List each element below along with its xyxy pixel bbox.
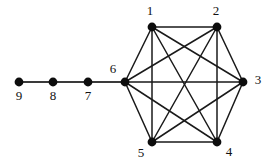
graph-vertex-1 — [148, 23, 157, 32]
vertex-label-4: 4 — [226, 144, 233, 159]
graph-vertex-3 — [239, 78, 248, 87]
graph-diagram: 123456789 — [0, 0, 274, 166]
graph-vertex-4 — [213, 138, 222, 147]
graph-vertex-6 — [121, 78, 130, 87]
vertex-label-2: 2 — [213, 3, 220, 18]
vertex-label-8: 8 — [50, 88, 57, 103]
vertex-label-6: 6 — [110, 61, 117, 76]
graph-vertex-9 — [15, 78, 24, 87]
vertex-label-3: 3 — [255, 72, 262, 87]
vertex-label-5: 5 — [138, 145, 145, 160]
graph-vertex-7 — [84, 78, 93, 87]
vertex-layer — [15, 23, 248, 147]
graph-vertex-5 — [148, 138, 157, 147]
graph-vertex-2 — [213, 23, 222, 32]
vertex-label-7: 7 — [85, 88, 92, 103]
graph-canvas: 123456789 — [0, 0, 274, 166]
vertex-label-9: 9 — [16, 88, 23, 103]
graph-vertex-8 — [49, 78, 58, 87]
vertex-label-1: 1 — [147, 3, 154, 18]
